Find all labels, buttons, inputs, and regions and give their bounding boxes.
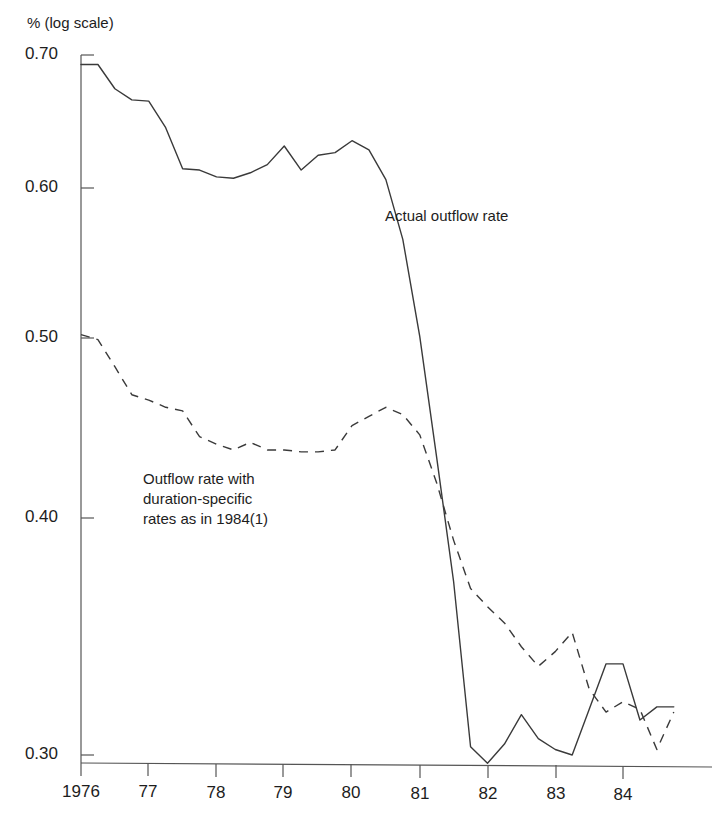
x-tick-label-81: 81 (411, 784, 430, 804)
x-tick-label-80: 80 (342, 783, 361, 803)
x-tick-label-82: 82 (479, 784, 498, 804)
axes (81, 55, 712, 779)
x-axis-line (81, 763, 712, 767)
series-actual-outflow-rate (81, 65, 674, 764)
y-tick-label-070: 0.70 (0, 44, 58, 64)
x-tick-label-1976: 1976 (62, 782, 100, 802)
annotation-counterfactual-line-1: Outflow rate with (143, 469, 268, 489)
annotation-counterfactual-outflow-rate: Outflow rate with duration-specific rate… (143, 469, 268, 529)
x-tick-label-77: 77 (139, 782, 158, 802)
x-tick-label-84: 84 (614, 785, 633, 805)
series-counterfactual-outflow-rate (81, 335, 674, 750)
x-tick-label-79: 79 (274, 783, 293, 803)
y-tick-label-040: 0.40 (0, 507, 58, 527)
chart-figure: % (log scale) (0, 0, 719, 820)
y-tick-label-060: 0.60 (0, 177, 58, 197)
y-tick-label-030: 0.30 (0, 744, 58, 764)
annotation-counterfactual-line-2: duration-specific (143, 489, 268, 509)
annotation-actual-outflow-rate: Actual outflow rate (385, 206, 508, 226)
x-tick-label-78: 78 (207, 783, 226, 803)
x-tick-label-83: 83 (547, 784, 566, 804)
y-tick-label-050: 0.50 (0, 327, 58, 347)
line-chart-plot (0, 0, 719, 820)
data-series (81, 65, 674, 764)
annotation-actual-line-1: Actual outflow rate (385, 206, 508, 226)
y-axis-ticks (81, 55, 94, 755)
annotation-counterfactual-line-3: rates as in 1984(1) (143, 509, 268, 529)
